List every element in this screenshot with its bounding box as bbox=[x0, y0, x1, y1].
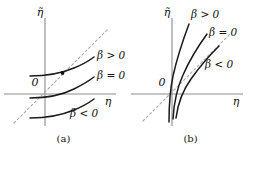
figure-container: η̃ η 0 β > 0 β = 0 β < 0 (a) η̃ bbox=[0, 0, 254, 170]
y-axis-label-b: η̃ bbox=[164, 6, 171, 19]
curve-label-beta-zero-a: β = 0 bbox=[96, 69, 126, 81]
plot-b: η̃ η 0 β > 0 β = 0 β < 0 bbox=[127, 0, 254, 140]
curve-label-beta-positive-a: β > 0 bbox=[96, 49, 126, 61]
x-axis-label-b: η bbox=[233, 95, 240, 108]
panel-a: η̃ η 0 β > 0 β = 0 β < 0 (a) bbox=[0, 0, 127, 170]
curve-label-beta-negative-a: β < 0 bbox=[69, 107, 99, 119]
identity-intersection-marker-a bbox=[61, 71, 65, 75]
x-axis-label-a: η bbox=[105, 95, 112, 108]
panel-b: η̃ η 0 β > 0 β = 0 β < 0 (b) bbox=[127, 0, 254, 170]
curve-label-beta-negative-b: β < 0 bbox=[204, 58, 234, 70]
origin-label-b: 0 bbox=[159, 76, 166, 89]
curve-label-beta-positive-b: β > 0 bbox=[190, 8, 220, 20]
plot-a: η̃ η 0 β > 0 β = 0 β < 0 bbox=[0, 0, 127, 140]
y-axis-label-a: η̃ bbox=[37, 6, 44, 19]
curve-beta-zero-a bbox=[30, 77, 94, 98]
curve-beta-negative-b bbox=[176, 46, 219, 118]
curve-label-beta-zero-b: β = 0 bbox=[208, 26, 238, 38]
panel-caption-a: (a) bbox=[0, 133, 127, 144]
origin-label-a: 0 bbox=[32, 76, 39, 89]
panel-caption-b: (b) bbox=[127, 133, 254, 144]
